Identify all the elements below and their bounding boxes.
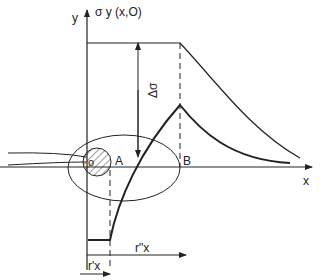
upper-stress-curve — [87, 43, 300, 158]
r-prime-label: r'x — [88, 259, 100, 273]
lower-stress-curve — [88, 105, 290, 240]
delta-sigma-label: Δσ — [146, 82, 160, 98]
y-axis-label: y — [72, 11, 78, 25]
stress-distribution-diagram: y σ y (x,O) x Δσ o A B r"x r'x — [0, 0, 320, 280]
r-double-prime-label: r"x — [135, 241, 149, 255]
point-A-label: A — [115, 154, 123, 168]
x-axis-label: x — [303, 174, 309, 188]
crack-lower — [8, 162, 86, 165]
sigma-label: σ y (x,O) — [95, 5, 142, 19]
crack-upper — [8, 153, 86, 157]
origin-label: o — [88, 156, 94, 168]
point-B-label: B — [183, 154, 191, 168]
